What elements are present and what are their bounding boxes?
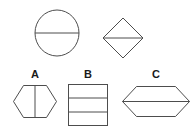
option-b-label: B [78, 69, 98, 80]
rect-b-outline [69, 85, 108, 126]
shape-puzzle-canvas: A B C [0, 0, 196, 134]
option-b-rectangle-with-horizontal-dividers[interactable] [68, 84, 108, 126]
diamond-with-horizontal-divider [102, 17, 144, 59]
option-c-label: C [146, 69, 166, 80]
option-a-hexagon-with-vertical-divider[interactable] [13, 85, 57, 118]
option-a-label: A [25, 69, 45, 80]
option-c-hexagon-with-horizontal-divider[interactable] [122, 86, 190, 117]
circle-with-horizontal-divider [34, 9, 80, 57]
